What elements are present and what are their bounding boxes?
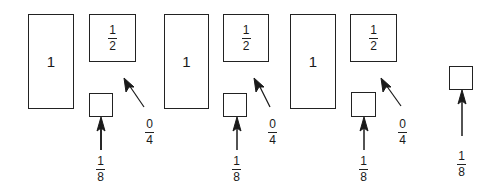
diagonal-arrow-icon xyxy=(129,85,144,107)
arrowhead-icon xyxy=(254,78,264,92)
diagonal-arrow-icon xyxy=(386,85,401,106)
diagonal-arrow-icon xyxy=(259,85,270,107)
fraction-diagram: 1 1 2 1 8 0 4 1 1 2 1 8 0 4 xyxy=(0,0,500,193)
arrows-layer xyxy=(0,0,500,193)
